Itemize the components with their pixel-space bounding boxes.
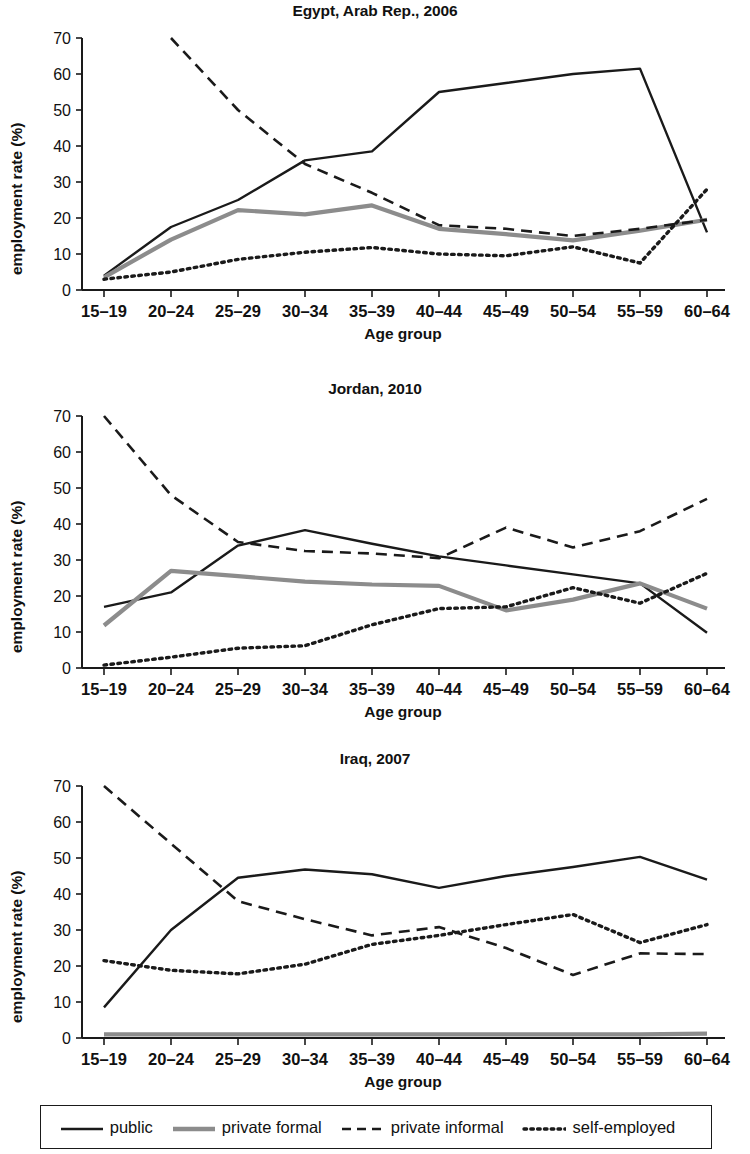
x-tick-label: 40–44 bbox=[416, 1050, 463, 1068]
y-tick-label: 60 bbox=[53, 66, 71, 83]
x-tick-label: 20–24 bbox=[148, 680, 195, 698]
y-tick-label: 0 bbox=[62, 1030, 71, 1047]
x-tick-label: 35–39 bbox=[349, 302, 395, 320]
plot-area-egypt: 01020304050607015–1920–2425–2930–3435–39… bbox=[0, 0, 750, 355]
x-tick-label: 35–39 bbox=[349, 1050, 395, 1068]
x-tick-label: 25–29 bbox=[215, 302, 261, 320]
y-tick-label: 30 bbox=[53, 922, 71, 939]
series-line-private-informal bbox=[104, 416, 707, 558]
series-line-self-employed bbox=[104, 915, 707, 974]
legend-label: private informal bbox=[391, 1118, 504, 1137]
x-axis-label-iraq: Age group bbox=[28, 1073, 750, 1091]
y-tick-label: 50 bbox=[53, 102, 71, 119]
legend-row: publicprivate formalprivate informalself… bbox=[59, 1118, 694, 1137]
legend-item-public: public bbox=[59, 1118, 171, 1137]
x-tick-label: 50–54 bbox=[550, 302, 597, 320]
series-line-private-formal bbox=[104, 1034, 707, 1035]
legend-line-solid-black bbox=[59, 1121, 103, 1133]
y-tick-label: 10 bbox=[53, 994, 71, 1011]
x-tick-label: 25–29 bbox=[215, 1050, 261, 1068]
plot-area-jordan: 01020304050607015–1920–2425–2930–3435–39… bbox=[0, 378, 750, 733]
x-tick-label: 55–59 bbox=[617, 302, 663, 320]
legend-line-solid-gray bbox=[171, 1121, 215, 1133]
x-tick-label: 40–44 bbox=[416, 302, 463, 320]
y-tick-label: 20 bbox=[53, 210, 71, 227]
x-tick-label: 60–64 bbox=[684, 1050, 731, 1068]
x-tick-label: 20–24 bbox=[148, 1050, 195, 1068]
y-tick-label: 70 bbox=[53, 30, 71, 47]
y-tick-label: 40 bbox=[53, 516, 71, 533]
figure-page: Egypt, Arab Rep., 2006 employment rate (… bbox=[0, 0, 750, 1154]
y-tick-label: 20 bbox=[53, 588, 71, 605]
y-tick-label: 40 bbox=[53, 886, 71, 903]
y-tick-label: 60 bbox=[53, 814, 71, 831]
y-tick-label: 50 bbox=[53, 480, 71, 497]
y-tick-label: 20 bbox=[53, 958, 71, 975]
x-tick-label: 45–49 bbox=[483, 1050, 529, 1068]
x-tick-label: 25–29 bbox=[215, 680, 261, 698]
chart-panel-jordan: Jordan, 2010 employment rate (%) 0102030… bbox=[0, 378, 750, 733]
x-tick-label: 15–19 bbox=[81, 680, 127, 698]
y-tick-label: 60 bbox=[53, 444, 71, 461]
x-tick-label: 50–54 bbox=[550, 1050, 597, 1068]
legend-line-dotted bbox=[522, 1121, 566, 1133]
y-tick-label: 70 bbox=[53, 778, 71, 795]
y-tick-label: 40 bbox=[53, 138, 71, 155]
x-tick-label: 60–64 bbox=[684, 680, 731, 698]
y-tick-label: 0 bbox=[62, 660, 71, 677]
legend-line-dashed bbox=[340, 1121, 384, 1133]
x-tick-label: 45–49 bbox=[483, 680, 529, 698]
x-tick-label: 30–34 bbox=[282, 1050, 329, 1068]
legend-label: self-employed bbox=[573, 1118, 676, 1137]
plot-area-iraq: 01020304050607015–1920–2425–2930–3435–39… bbox=[0, 748, 750, 1103]
x-tick-label: 55–59 bbox=[617, 1050, 663, 1068]
x-tick-label: 15–19 bbox=[81, 302, 127, 320]
x-axis-label-jordan: Age group bbox=[28, 703, 750, 721]
legend-label: private formal bbox=[222, 1118, 322, 1137]
y-tick-label: 30 bbox=[53, 174, 71, 191]
x-tick-label: 40–44 bbox=[416, 680, 463, 698]
x-axis-label-egypt: Age group bbox=[28, 325, 750, 343]
series-line-private-informal bbox=[171, 38, 707, 236]
x-tick-label: 35–39 bbox=[349, 680, 395, 698]
x-tick-label: 50–54 bbox=[550, 680, 597, 698]
x-tick-label: 45–49 bbox=[483, 302, 529, 320]
legend-item-private-informal: private informal bbox=[340, 1118, 522, 1137]
x-tick-label: 60–64 bbox=[684, 302, 731, 320]
legend-label: public bbox=[110, 1118, 153, 1137]
series-line-public bbox=[104, 69, 707, 276]
y-tick-label: 10 bbox=[53, 246, 71, 263]
x-tick-label: 15–19 bbox=[81, 1050, 127, 1068]
y-tick-label: 0 bbox=[62, 282, 71, 299]
chart-panel-egypt: Egypt, Arab Rep., 2006 employment rate (… bbox=[0, 0, 750, 355]
y-tick-label: 10 bbox=[53, 624, 71, 641]
legend-item-private-formal: private formal bbox=[171, 1118, 340, 1137]
y-tick-label: 70 bbox=[53, 408, 71, 425]
chart-panel-iraq: Iraq, 2007 employment rate (%) 010203040… bbox=[0, 748, 750, 1103]
x-tick-label: 30–34 bbox=[282, 302, 329, 320]
legend-item-self-employed: self-employed bbox=[522, 1118, 694, 1137]
y-tick-label: 50 bbox=[53, 850, 71, 867]
chart-legend: publicprivate formalprivate informalself… bbox=[40, 1105, 712, 1149]
y-tick-label: 30 bbox=[53, 552, 71, 569]
x-tick-label: 55–59 bbox=[617, 680, 663, 698]
x-tick-label: 30–34 bbox=[282, 680, 329, 698]
x-tick-label: 20–24 bbox=[148, 302, 195, 320]
